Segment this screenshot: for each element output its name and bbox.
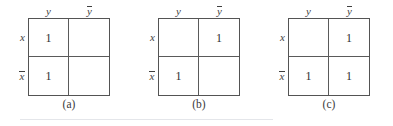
variable-label-y-bar: y xyxy=(217,6,223,17)
karnaugh-map-c: y y x x 1 1 1 (c) xyxy=(260,0,391,126)
caption-b: (b) xyxy=(158,99,240,111)
column-headers-c: y y xyxy=(288,2,370,17)
variable-label-x-bar: x xyxy=(149,71,155,82)
kmap-cell-bottom-right: 1 xyxy=(329,57,369,95)
variable-label-x: x xyxy=(20,32,25,43)
kmap-cell-bottom-left: 1 xyxy=(289,57,329,95)
kmap-cell-top-right: 1 xyxy=(199,19,239,57)
column-header-y: y xyxy=(288,2,329,17)
caption-a: (a) xyxy=(28,99,110,111)
variable-label-y: y xyxy=(176,6,181,17)
row-headers-a: x x xyxy=(8,18,26,96)
kmap-cell-bottom-right xyxy=(199,57,239,95)
horizontal-rule xyxy=(20,119,273,120)
kmap-cell-bottom-left: 1 xyxy=(159,57,199,95)
variable-label-y: y xyxy=(306,6,311,17)
column-header-y-bar: y xyxy=(69,2,110,17)
variable-label-x-bar: x xyxy=(19,71,25,82)
caption-c: (c) xyxy=(288,99,370,111)
row-header-x: x xyxy=(138,18,156,57)
kmap-cell-top-left xyxy=(159,19,199,57)
kmap-cell-bottom-left: 1 xyxy=(29,57,69,95)
variable-label-x: x xyxy=(280,32,285,43)
kmap-cell-bottom-right xyxy=(69,57,109,95)
row-header-x-bar: x xyxy=(8,57,26,96)
kmap-cell-top-left: 1 xyxy=(29,19,69,57)
kmap-cell-top-left xyxy=(289,19,329,57)
column-header-y-bar: y xyxy=(199,2,240,17)
variable-label-x: x xyxy=(150,32,155,43)
column-header-y: y xyxy=(158,2,199,17)
column-header-y-bar: y xyxy=(329,2,370,17)
row-headers-b: x x xyxy=(138,18,156,96)
row-header-x-bar: x xyxy=(268,57,286,96)
karnaugh-map-a: y y x x 1 1 (a) xyxy=(0,0,131,126)
karnaugh-map-b: y y x x 1 1 (b) xyxy=(130,0,261,126)
kmap-cell-top-right: 1 xyxy=(329,19,369,57)
variable-label-y: y xyxy=(46,6,51,17)
karnaugh-grid-c: 1 1 1 xyxy=(288,18,370,96)
row-header-x: x xyxy=(8,18,26,57)
karnaugh-grid-a: 1 1 xyxy=(28,18,110,96)
karnaugh-grid-b: 1 1 xyxy=(158,18,240,96)
variable-label-y-bar: y xyxy=(347,6,353,17)
variable-label-y-bar: y xyxy=(87,6,93,17)
kmap-cell-top-right xyxy=(69,19,109,57)
karnaugh-map-figure: y y x x 1 1 (a) y xyxy=(0,0,393,126)
column-headers-b: y y xyxy=(158,2,240,17)
row-header-x: x xyxy=(268,18,286,57)
column-headers-a: y y xyxy=(28,2,110,17)
variable-label-x-bar: x xyxy=(279,71,285,82)
row-header-x-bar: x xyxy=(138,57,156,96)
row-headers-c: x x xyxy=(268,18,286,96)
column-header-y: y xyxy=(28,2,69,17)
